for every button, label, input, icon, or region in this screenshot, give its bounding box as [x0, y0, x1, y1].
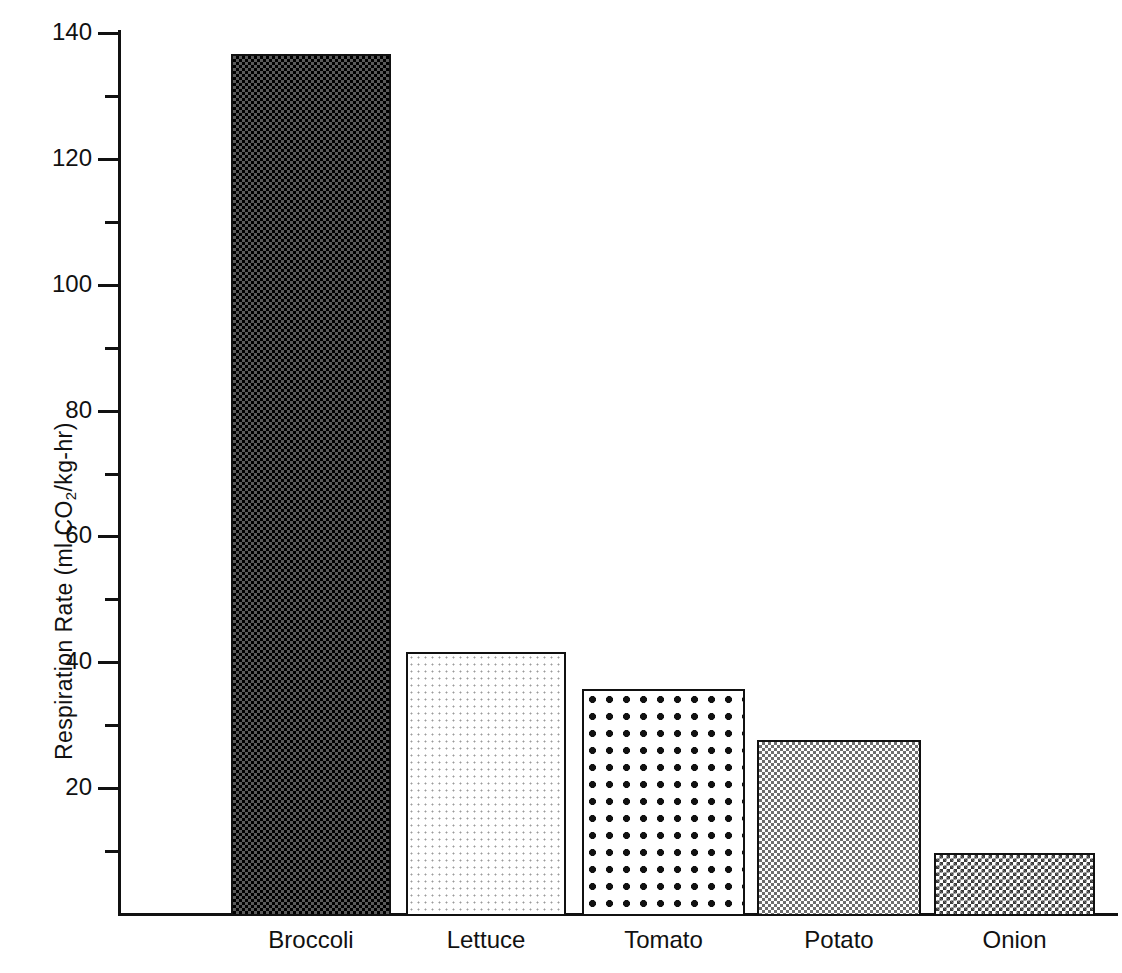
y-axis-title-suffix: /kg-hr) — [51, 422, 77, 491]
y-axis-major-tick — [98, 158, 120, 161]
x-axis-label-broccoli: Broccoli — [231, 925, 391, 955]
y-axis-major-tick — [98, 284, 120, 287]
y-axis-tick-label: 100 — [0, 272, 92, 296]
bar-potato[interactable] — [757, 740, 921, 916]
y-axis-minor-tick — [105, 347, 120, 350]
y-axis-minor-tick — [105, 724, 120, 727]
y-axis-minor-tick — [105, 598, 120, 601]
y-axis-major-tick — [98, 787, 120, 790]
y-axis-minor-tick — [105, 473, 120, 476]
bar-onion[interactable] — [934, 853, 1095, 916]
bar-broccoli[interactable] — [231, 54, 391, 916]
y-axis-tick-label: 20 — [0, 775, 92, 799]
bar-tomato[interactable] — [582, 689, 745, 916]
y-axis-minor-tick — [105, 95, 120, 98]
x-axis-label-tomato: Tomato — [582, 925, 745, 955]
x-axis-label-onion: Onion — [934, 925, 1095, 955]
x-axis-label-potato: Potato — [757, 925, 921, 955]
y-axis-major-tick — [98, 410, 120, 413]
y-axis-major-tick — [98, 32, 120, 35]
y-axis-tick-label: 140 — [0, 20, 92, 44]
y-axis-title-subscript: 2 — [62, 492, 79, 501]
bar-lettuce[interactable] — [406, 652, 566, 916]
y-axis-major-tick — [98, 661, 120, 664]
x-axis-label-lettuce: Lettuce — [406, 925, 566, 955]
y-axis-minor-tick — [105, 850, 120, 853]
y-axis-tick-label: 40 — [0, 649, 92, 673]
y-axis-tick-label: 60 — [0, 523, 92, 547]
y-axis-major-tick — [98, 535, 120, 538]
y-axis-tick-label: 80 — [0, 398, 92, 422]
bar-chart: Respiration Rate (ml CO2/kg-hr) 20406080… — [0, 0, 1122, 973]
y-axis-tick-label: 120 — [0, 146, 92, 170]
y-axis-minor-tick — [105, 221, 120, 224]
